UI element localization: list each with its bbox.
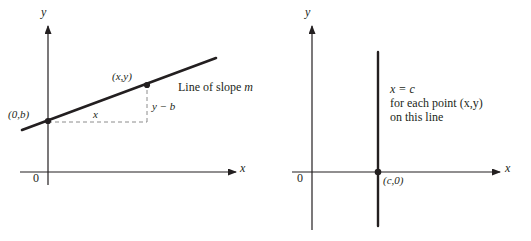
line-slope-caption-text: Line of slope — [178, 80, 244, 94]
left-panel-axes — [20, 26, 236, 185]
left-origin-label: 0 — [33, 171, 39, 185]
right-origin-label: 0 — [297, 171, 303, 185]
right-panel-axes — [292, 26, 500, 230]
y-intercept-point — [45, 118, 51, 124]
line-slope-caption: Line of slope m — [178, 80, 253, 94]
vertical-line-note: x = c for each point (x,y) on this line — [390, 82, 483, 124]
general-point-label: (x,y) — [112, 70, 132, 83]
right-y-axis-label: y — [305, 5, 310, 19]
note-line-on-this-line: on this line — [390, 110, 483, 124]
left-x-axis-label: x — [240, 161, 245, 175]
right-x-axis-label: x — [505, 161, 510, 175]
run-label: x — [93, 108, 98, 121]
left-y-axis-label: y — [41, 5, 46, 19]
note-line-equation: x = c — [390, 82, 483, 96]
x-intercept-label: (c,0) — [383, 174, 403, 187]
rise-label: y − b — [152, 100, 175, 113]
line-slope-caption-variable: m — [244, 80, 253, 94]
figure-canvas: y x 0 (0,b) (x,y) x y − b Line of slope … — [0, 0, 531, 241]
y-intercept-label: (0,b) — [8, 108, 29, 121]
note-line-for-each-point: for each point (x,y) — [390, 96, 483, 110]
general-point — [144, 82, 150, 88]
x-intercept-point — [375, 169, 382, 176]
